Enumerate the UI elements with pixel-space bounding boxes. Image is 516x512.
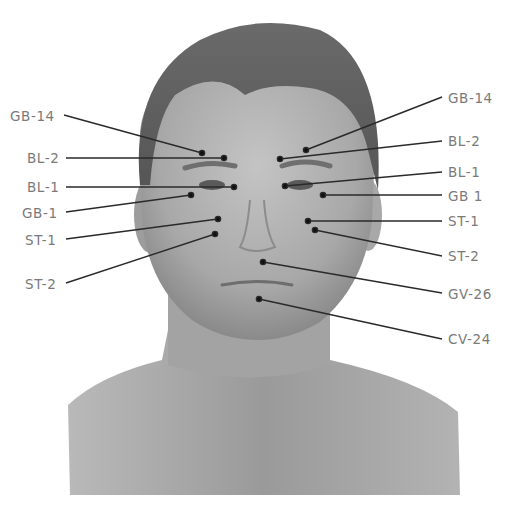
label-st2-left: ST-2 [25, 276, 56, 292]
acupuncture-face-diagram: GB-14 BL-2 BL-1 GB-1 ST-1 ST-2 GB-14 BL-… [0, 0, 516, 512]
point-bl1-left [231, 184, 236, 189]
point-st1-right [305, 218, 310, 223]
point-gb1-left [188, 192, 193, 197]
label-bl1-right: BL-1 [448, 164, 480, 180]
label-bl2-left: BL-2 [27, 150, 59, 166]
point-gb14-right [303, 147, 308, 152]
label-bl1-left: BL-1 [27, 179, 59, 195]
point-bl1-right [282, 183, 287, 188]
label-gb14-right: GB-14 [448, 90, 493, 106]
point-st1-left [215, 216, 220, 221]
label-st1-right: ST-1 [448, 213, 479, 229]
point-gb14-left [199, 150, 204, 155]
point-bl2-right [277, 156, 282, 161]
point-st2-left [212, 231, 217, 236]
label-gb1-right: GB 1 [448, 188, 483, 204]
point-gb1-right [320, 192, 325, 197]
label-st1-left: ST-1 [25, 232, 56, 248]
point-st2-right [312, 227, 317, 232]
label-gb14-left: GB-14 [10, 108, 55, 124]
label-bl2-right: BL-2 [448, 133, 480, 149]
point-bl2-left [221, 155, 226, 160]
label-gv26: GV-26 [448, 286, 492, 302]
label-cv24: CV-24 [448, 331, 491, 347]
head-illustration [0, 0, 516, 512]
left-eye [199, 180, 225, 190]
label-st2-right: ST-2 [448, 248, 479, 264]
point-gv26 [260, 259, 265, 264]
point-cv24 [256, 296, 261, 301]
label-gb1-left: GB-1 [22, 205, 58, 221]
